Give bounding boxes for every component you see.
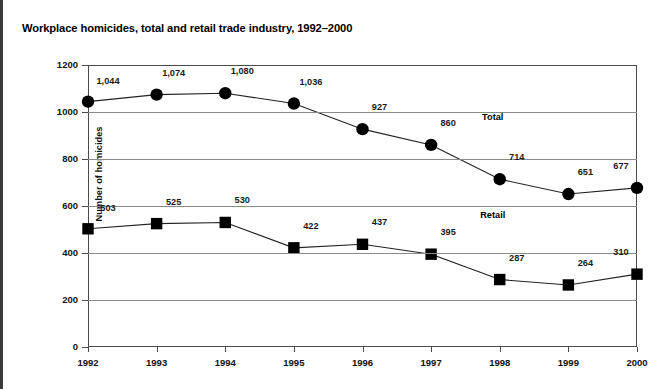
x-tick-label-2000: 2000: [626, 357, 647, 368]
gridline-400: [88, 253, 637, 254]
data-label-retail-1999: 264: [578, 258, 593, 268]
x-tick-label-1999: 1999: [558, 357, 579, 368]
data-label-total-1993: 1,074: [162, 68, 185, 78]
data-point-total-1997: [425, 139, 437, 151]
y-tick-label-1000: 1000: [2, 106, 78, 117]
data-point-retail-1998: [494, 274, 505, 285]
data-label-retail-1993: 525: [166, 197, 181, 207]
y-tick-1000: [82, 112, 88, 113]
x-tick-label-1995: 1995: [283, 357, 304, 368]
plot-area: Number of homicides 19921993199419951996…: [88, 65, 637, 347]
gridline-800: [88, 159, 637, 160]
x-tick-1999: [568, 347, 569, 352]
data-label-total-1999: 651: [578, 167, 593, 177]
data-label-total-1996: 927: [372, 102, 387, 112]
x-tick-1994: [225, 347, 226, 352]
data-point-retail-1995: [288, 242, 299, 253]
x-tick-label-1993: 1993: [146, 357, 167, 368]
data-label-total-1994: 1,080: [231, 66, 254, 76]
x-tick-1997: [431, 347, 432, 352]
y-tick-label-600: 600: [2, 200, 78, 211]
data-label-retail-2000: 310: [613, 247, 628, 257]
data-label-retail-1994: 530: [235, 195, 250, 205]
x-tick-label-1997: 1997: [421, 357, 442, 368]
data-point-total-1995: [288, 97, 300, 109]
x-tick-label-1996: 1996: [352, 357, 373, 368]
data-point-total-1992: [82, 95, 94, 107]
data-point-retail-1992: [82, 223, 93, 234]
y-tick-label-800: 800: [2, 153, 78, 164]
data-label-retail-1997: 395: [440, 227, 455, 237]
y-tick-800: [82, 159, 88, 160]
data-point-total-1994: [219, 87, 231, 99]
data-point-total-2000: [631, 182, 643, 194]
data-point-retail-2000: [631, 268, 642, 279]
data-point-total-1993: [150, 88, 162, 100]
series-label-retail: Retail: [480, 210, 505, 220]
series-line-total: [88, 93, 637, 194]
data-point-retail-1993: [151, 218, 162, 229]
y-axis-labels: 020040060080010001200: [0, 0, 88, 347]
data-label-total-1992: 1,044: [97, 76, 120, 86]
x-tick-1995: [294, 347, 295, 352]
data-label-retail-1998: 287: [509, 253, 524, 263]
y-tick-label-0: 0: [2, 341, 78, 352]
data-point-total-1996: [356, 123, 368, 135]
data-point-retail-1996: [357, 239, 368, 250]
y-tick-600: [82, 206, 88, 207]
x-tick-1996: [363, 347, 364, 352]
y-tick-1200: [82, 65, 88, 66]
y-tick-label-1200: 1200: [2, 59, 78, 70]
x-tick-1998: [500, 347, 501, 352]
x-tick-1992: [88, 347, 89, 352]
data-label-total-2000: 677: [613, 161, 628, 171]
data-label-total-1998: 714: [509, 152, 524, 162]
gridline-1000: [88, 112, 637, 113]
data-point-retail-1997: [425, 248, 436, 259]
x-tick-label-1998: 1998: [489, 357, 510, 368]
data-label-total-1995: 1,036: [299, 77, 322, 87]
y-tick-200: [82, 300, 88, 301]
y-tick-label-400: 400: [2, 247, 78, 258]
data-point-total-1998: [494, 173, 506, 185]
data-label-retail-1995: 422: [303, 221, 318, 231]
x-tick-label-1992: 1992: [77, 357, 98, 368]
data-point-retail-1999: [563, 279, 574, 290]
x-tick-2000: [637, 347, 638, 352]
page-top-rule: [3, 0, 660, 2]
series-label-total: Total: [482, 112, 503, 122]
data-label-retail-1996: 437: [372, 217, 387, 227]
x-tick-1993: [157, 347, 158, 352]
data-point-total-1999: [562, 188, 574, 200]
y-tick-label-200: 200: [2, 294, 78, 305]
data-point-retail-1994: [220, 217, 231, 228]
x-tick-label-1994: 1994: [215, 357, 236, 368]
data-label-total-1997: 860: [440, 118, 455, 128]
data-label-retail-1992: 503: [100, 203, 115, 213]
chart-page: Workplace homicides, total and retail tr…: [0, 0, 660, 389]
gridline-200: [88, 300, 637, 301]
y-tick-400: [82, 253, 88, 254]
